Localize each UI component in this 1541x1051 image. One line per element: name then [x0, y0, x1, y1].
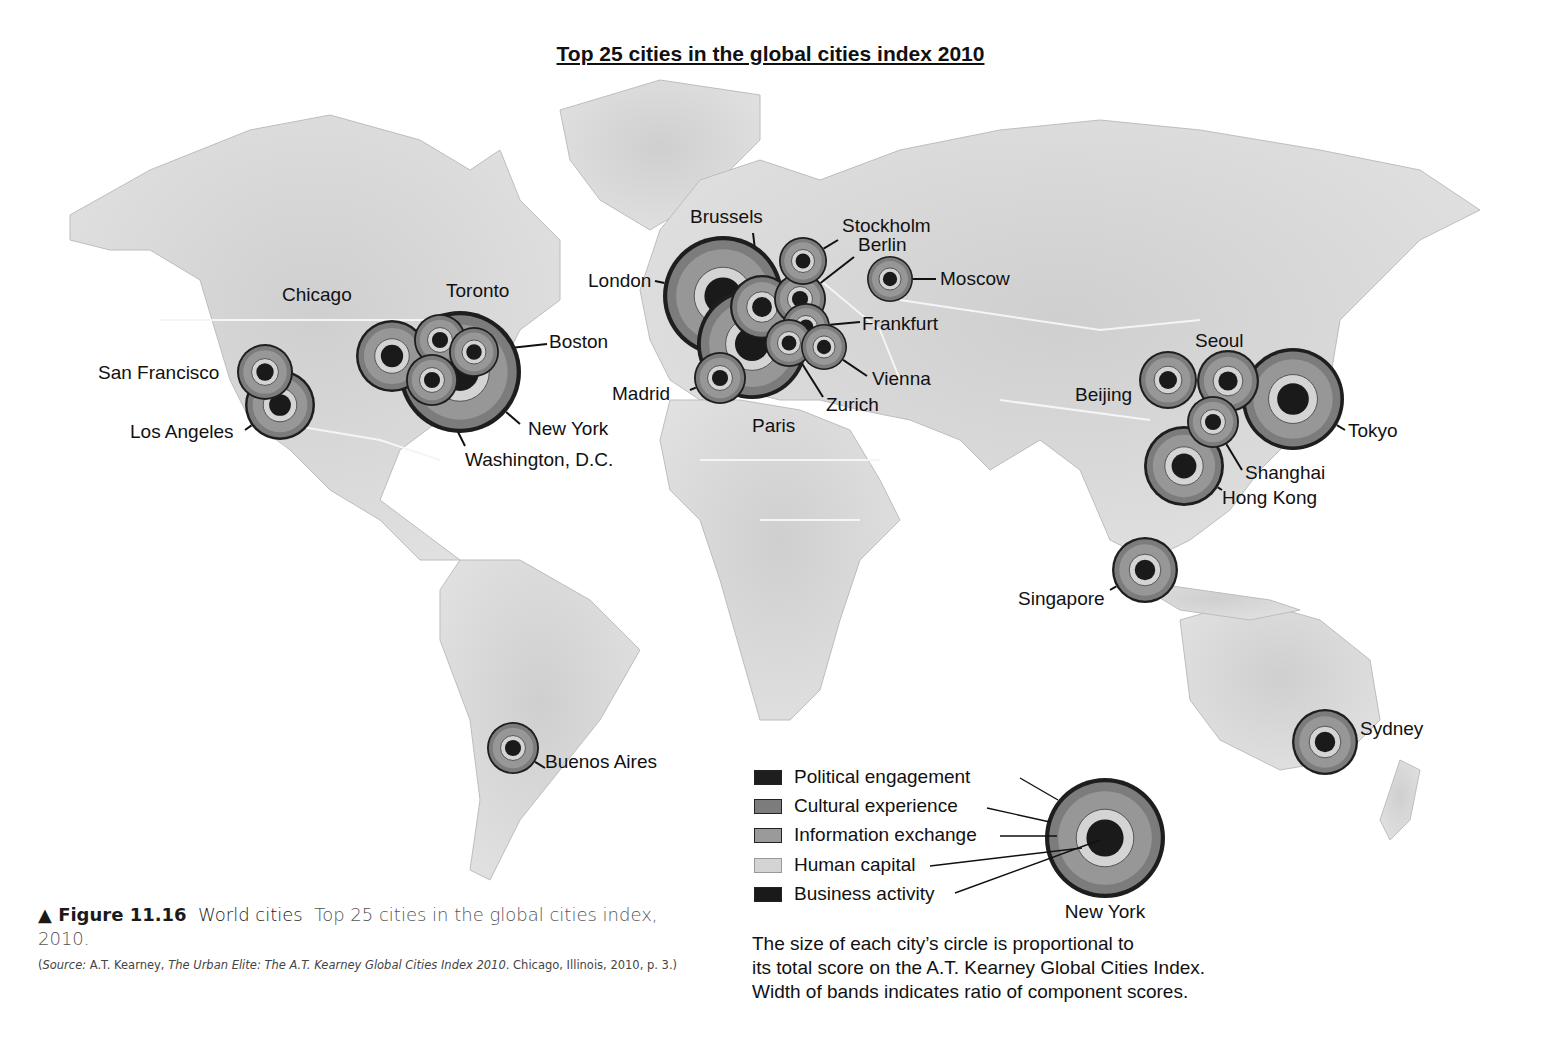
city-label: Berlin	[858, 234, 907, 255]
city-label: Zurich	[826, 394, 879, 415]
city-label: Los Angeles	[130, 421, 234, 442]
source-title: The Urban Elite: The A.T. Kearney Global…	[168, 958, 506, 972]
legend-item-information-exchange: Information exchange	[754, 821, 977, 849]
africa-landmass	[660, 400, 900, 720]
city-label: Stockholm	[842, 215, 931, 236]
city-label: Beijing	[1075, 384, 1132, 405]
city-bubble-shanghai	[1187, 396, 1239, 448]
legend-item-cultural-experience: Cultural experience	[754, 792, 958, 820]
city-bubble-vienna	[801, 324, 847, 370]
business-activity-core	[432, 332, 448, 348]
business-activity-core	[381, 345, 403, 367]
caption-figure-number: ▲ Figure 11.16	[38, 904, 187, 925]
source-rest: . Chicago, Illinois, 2010, p. 3.)	[506, 958, 677, 972]
legend-example-bubble: New York	[930, 778, 1165, 922]
south-america-landmass	[440, 560, 640, 880]
new-zealand-landmass	[1380, 760, 1420, 840]
city-label: Sydney	[1360, 718, 1424, 739]
city-bubble-sydney	[1292, 709, 1358, 775]
leader-line	[1110, 586, 1116, 590]
business-activity-core	[1159, 371, 1177, 389]
legend-item-human-capital: Human capital	[754, 851, 915, 879]
city-label: Moscow	[940, 268, 1010, 289]
business-activity-core	[1135, 560, 1155, 580]
city-bubble-singapore	[1112, 537, 1178, 603]
legend-item-political-engagement: Political engagement	[754, 763, 970, 791]
business-activity-core	[883, 272, 897, 286]
city-label: Chicago	[282, 284, 352, 305]
city-label: San Francisco	[98, 362, 219, 383]
city-bubble-tokyo	[1242, 348, 1344, 450]
city-label: New York	[528, 418, 609, 439]
city-label: Buenos Aires	[545, 751, 657, 772]
business-activity-core	[466, 344, 482, 360]
business-activity-core	[817, 340, 831, 354]
business-activity-core	[752, 297, 772, 317]
source-author: A.T. Kearney,	[86, 958, 168, 972]
city-bubble-stockholm	[779, 237, 827, 285]
business-activity-core	[712, 370, 728, 386]
source-label: Source:	[43, 958, 87, 972]
leader-line	[506, 412, 520, 424]
legend-label: Cultural experience	[794, 795, 958, 817]
legend-example-label: New York	[1065, 901, 1146, 922]
business-activity-core	[1277, 383, 1309, 415]
human-capital-swatch	[754, 858, 782, 873]
legend-label: Political engagement	[794, 766, 970, 788]
city-label: Frankfurt	[862, 313, 939, 334]
city-label: Vienna	[872, 368, 931, 389]
legend-note-line: its total score on the A.T. Kearney Glob…	[752, 956, 1205, 980]
business-activity-core	[1086, 819, 1123, 856]
legend-label: Information exchange	[794, 824, 977, 846]
city-bubble-washington-d-c-	[406, 354, 458, 406]
legend-item-business-activity: Business activity	[754, 880, 934, 908]
legend-note-line: Width of bands indicates ratio of compon…	[752, 980, 1205, 1004]
city-bubble-madrid	[694, 352, 746, 404]
business-activity-core	[1315, 732, 1335, 752]
business-activity-swatch	[754, 887, 782, 902]
political-engagement-swatch	[754, 770, 782, 785]
business-activity-core	[1205, 414, 1221, 430]
city-label: Washington, D.C.	[465, 449, 613, 470]
caption-figure-name: World cities	[198, 904, 303, 925]
city-bubble-boston	[449, 327, 499, 377]
legend-note: The size of each city’s circle is propor…	[752, 932, 1205, 1004]
information-exchange-swatch	[754, 828, 782, 843]
business-activity-core	[1218, 371, 1237, 390]
caption-main: ▲ Figure 11.16 World cities Top 25 citie…	[38, 903, 678, 951]
business-activity-core	[505, 740, 521, 756]
city-label: Singapore	[1018, 588, 1105, 609]
city-label: Shanghai	[1245, 462, 1325, 483]
city-bubble-san-francisco	[237, 344, 293, 400]
business-activity-core	[1172, 454, 1197, 479]
city-bubble-beijing	[1139, 351, 1197, 409]
city-bubble-legend-new-york	[1045, 778, 1165, 898]
city-label: London	[588, 270, 651, 291]
business-activity-core	[424, 372, 440, 388]
legend-label: Business activity	[794, 883, 934, 905]
legend-leader-line	[1020, 778, 1058, 800]
cultural-experience-swatch	[754, 799, 782, 814]
city-bubble-moscow	[867, 256, 913, 302]
business-activity-core	[796, 254, 811, 269]
legend-note-line: The size of each city’s circle is propor…	[752, 932, 1205, 956]
legend-leader-line	[987, 808, 1050, 822]
city-label: Paris	[752, 415, 795, 436]
city-label: Seoul	[1195, 330, 1244, 351]
leader-line	[1337, 425, 1345, 430]
city-label: Madrid	[612, 383, 670, 404]
business-activity-core	[782, 336, 797, 351]
city-label: Brussels	[690, 206, 763, 227]
city-label: Boston	[549, 331, 608, 352]
city-label: Tokyo	[1348, 420, 1398, 441]
triangle-icon: ▲	[38, 904, 52, 925]
legend-label: Human capital	[794, 854, 915, 876]
city-label: Toronto	[446, 280, 509, 301]
leader-line	[245, 425, 252, 430]
figure-caption: ▲ Figure 11.16 World cities Top 25 citie…	[38, 903, 678, 974]
caption-figure-label: Figure 11.16	[58, 904, 186, 925]
business-activity-core	[256, 363, 273, 380]
caption-source: (Source: A.T. Kearney, The Urban Elite: …	[38, 957, 678, 974]
city-label: Hong Kong	[1222, 487, 1317, 508]
city-bubble-buenos-aires	[487, 722, 539, 774]
